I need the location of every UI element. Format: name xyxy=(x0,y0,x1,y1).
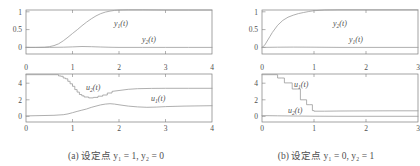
plot-a-outputs-svg: 1 0.5 0 y1(t) y2(t) xyxy=(0,2,232,64)
curve-a-u1 xyxy=(26,104,212,116)
y-tick-labels: 4 2 0 xyxy=(18,79,22,121)
label-b-y2: y2(t) xyxy=(332,19,347,29)
x-tick-labels-b-outputs: 0 1 2 3 xyxy=(260,63,420,72)
xtick-a-out-2: 2 xyxy=(117,63,121,72)
axes-frame xyxy=(26,74,212,122)
curve-a-y2 xyxy=(26,47,212,48)
xtick-a-in-3: 3 xyxy=(164,124,168,133)
xtick-a-out-4: 4 xyxy=(210,63,214,72)
x-tick-labels-a-outputs: 0 1 2 3 4 xyxy=(24,63,214,72)
ytick-a-out-05: 0.5 xyxy=(13,25,23,34)
y-tick-labels: 4 2 0 xyxy=(254,79,258,121)
ytick-b-in-4: 4 xyxy=(254,79,258,88)
y-ticks xyxy=(262,12,266,48)
caption-b-text: (b) 设定点 y₁ = 0, y₂ = 1 xyxy=(278,151,374,161)
plot-b-outputs-svg: 1 0.5 0 y2(t) y1(t) xyxy=(232,2,420,64)
plot-b-outputs: 1 0.5 0 y2(t) y1(t) xyxy=(232,2,420,64)
xtick-b-out-0: 0 xyxy=(260,63,264,72)
xtick-b-out-3: 3 xyxy=(416,63,420,72)
label-b-u2: u2(t) xyxy=(288,106,303,116)
plot-b-inputs: 0 1 2 3 xyxy=(232,60,420,140)
ytick-b-out-1: 1 xyxy=(254,8,258,17)
y-ticks xyxy=(26,12,30,48)
x-tick-labels-b-inputs: 0 1 2 3 xyxy=(260,124,420,133)
curve-b-y2 xyxy=(262,10,418,48)
y-tick-labels: 1 0.5 0 xyxy=(249,8,259,53)
xtick-b-in-2: 2 xyxy=(364,124,368,133)
xtick-b-in-0: 0 xyxy=(260,124,264,133)
xtick-b-out-1: 1 xyxy=(312,63,316,72)
ytick-a-in-4: 4 xyxy=(18,79,22,88)
label-b-y1: y1(t) xyxy=(348,35,363,45)
caption-b: (b) 设定点 y₁ = 0, y₂ = 1 xyxy=(232,148,420,162)
ytick-a-in-2: 2 xyxy=(18,96,22,105)
subfigure-a: 1 0.5 0 y1(t) y2(t) 0 1 2 xyxy=(0,0,232,166)
ytick-b-out-0: 0 xyxy=(254,43,258,52)
axes-frame xyxy=(262,74,418,122)
xtick-b-in-3: 3 xyxy=(416,124,420,133)
xtick-a-in-4: 4 xyxy=(210,124,214,133)
figure-container: 1 0.5 0 y1(t) y2(t) 0 1 2 xyxy=(0,0,420,166)
curve-b-u2 xyxy=(262,116,418,117)
y-ticks xyxy=(26,83,30,116)
plot-b-inputs-svg: 0 1 2 3 xyxy=(232,60,420,140)
plot-a-outputs: 1 0.5 0 y1(t) y2(t) xyxy=(0,2,232,64)
curve-a-u2 xyxy=(26,75,212,98)
plot-a-inputs-svg: 0 1 2 3 4 xyxy=(0,60,232,140)
xtick-a-out-3: 3 xyxy=(164,63,168,72)
plot-a-inputs: 0 1 2 3 4 xyxy=(0,60,232,140)
label-a-y1: y1(t) xyxy=(113,19,128,29)
subfigure-b: 1 0.5 0 y2(t) y1(t) 0 1 2 3 xyxy=(232,0,420,166)
x-ticks xyxy=(314,74,366,122)
ytick-a-in-0: 0 xyxy=(18,112,22,121)
xtick-b-in-1: 1 xyxy=(312,124,316,133)
caption-a-text: (a) 设定点 y₁ = 1, y₂ = 0 xyxy=(68,151,164,161)
ytick-b-in-2: 2 xyxy=(254,96,258,105)
xtick-a-in-2: 2 xyxy=(117,124,121,133)
y-ticks xyxy=(262,83,266,116)
label-a-y2: y2(t) xyxy=(141,35,156,45)
curve-b-u1 xyxy=(262,75,418,112)
y-tick-labels: 1 0.5 0 xyxy=(13,8,23,53)
xtick-a-in-0: 0 xyxy=(24,124,28,133)
label-b-u1: u1(t) xyxy=(294,80,309,90)
ytick-b-out-05: 0.5 xyxy=(249,25,259,34)
xtick-b-out-2: 2 xyxy=(364,63,368,72)
caption-a: (a) 设定点 y₁ = 1, y₂ = 0 xyxy=(0,148,232,162)
ytick-a-out-1: 1 xyxy=(18,8,22,17)
x-tick-labels-a-inputs: 0 1 2 3 4 xyxy=(24,124,214,133)
xtick-a-in-1: 1 xyxy=(71,124,75,133)
label-a-u2: u2(t) xyxy=(86,83,101,93)
ytick-b-in-0: 0 xyxy=(254,112,258,121)
xtick-a-out-1: 1 xyxy=(71,63,75,72)
xtick-a-out-0: 0 xyxy=(24,63,28,72)
ytick-a-out-0: 0 xyxy=(18,43,22,52)
label-a-u1: u1(t) xyxy=(151,94,166,104)
